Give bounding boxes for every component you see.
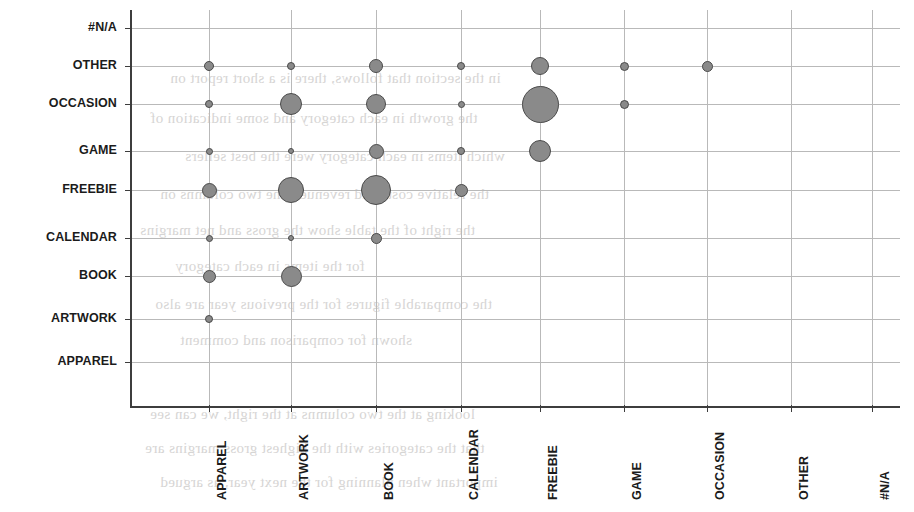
bubble-data-point bbox=[455, 184, 468, 197]
ghost-text-line: shown for comparison and comment bbox=[180, 332, 412, 349]
gridline-vertical bbox=[791, 10, 792, 406]
gridline-horizontal bbox=[131, 104, 900, 105]
bubble-data-point bbox=[531, 57, 549, 75]
y-axis-tick-label: CALENDAR bbox=[0, 230, 117, 244]
bubble-data-point bbox=[288, 148, 294, 154]
y-axis-line bbox=[130, 10, 132, 408]
ghost-text-line: the right of the table show the gross an… bbox=[140, 222, 475, 239]
bubble-data-point bbox=[702, 61, 713, 72]
gridline-horizontal bbox=[131, 319, 900, 320]
gridline-horizontal bbox=[131, 151, 900, 152]
y-axis-tick-label: BOOK bbox=[0, 268, 117, 282]
ghost-text-line: in the section that follows, there is a … bbox=[170, 70, 501, 87]
ghost-text-line: that the categories with the highest gro… bbox=[145, 440, 485, 457]
bubble-data-point bbox=[288, 235, 294, 241]
y-axis-tick-label: OTHER bbox=[0, 58, 117, 72]
bubble-data-point bbox=[205, 315, 213, 323]
gridline-horizontal bbox=[131, 28, 900, 29]
y-axis-tick-label: #N/A bbox=[0, 20, 117, 34]
ghost-text-line: the growth in each category and some ind… bbox=[150, 110, 477, 127]
gridline-horizontal bbox=[131, 362, 900, 363]
y-axis-tick-label: FREEBIE bbox=[0, 182, 117, 196]
bubble-data-point bbox=[620, 100, 629, 109]
bubble-data-point bbox=[203, 270, 216, 283]
bubble-data-point bbox=[620, 62, 629, 71]
x-axis-tick-label: #N/A bbox=[878, 471, 892, 500]
gridline-horizontal bbox=[131, 276, 900, 277]
bubble-data-point bbox=[278, 177, 304, 203]
bubble-data-point bbox=[205, 100, 213, 108]
bubble-data-point bbox=[280, 93, 302, 115]
bubble-data-point bbox=[287, 62, 295, 70]
bubble-data-point bbox=[281, 266, 302, 287]
y-axis-tick-label: ARTWORK bbox=[0, 311, 117, 325]
bubble-data-point bbox=[369, 59, 383, 73]
x-axis-tick-label: ARTWORK bbox=[297, 434, 311, 500]
y-axis-tick-label: OCCASION bbox=[0, 96, 117, 110]
x-axis-tick-label: GAME bbox=[630, 462, 644, 500]
bubble-data-point bbox=[529, 140, 551, 162]
x-axis-tick-label: FREEBIE bbox=[546, 445, 560, 500]
ghost-text-line: looking at the two columns at the right,… bbox=[150, 406, 475, 423]
x-axis-tick-label: BOOK bbox=[382, 462, 396, 500]
gridline-horizontal bbox=[131, 238, 900, 239]
bubble-data-point bbox=[457, 62, 465, 70]
bubble-matrix-chart: in the section that follows, there is a … bbox=[0, 0, 914, 512]
bubble-data-point bbox=[371, 233, 382, 244]
bubble-data-point bbox=[204, 61, 214, 71]
x-axis-tick-label: OCCASION bbox=[713, 432, 727, 500]
bubble-data-point bbox=[206, 148, 213, 155]
bubble-data-point bbox=[522, 86, 559, 123]
bubble-data-point bbox=[457, 147, 465, 155]
x-axis-line bbox=[130, 406, 900, 408]
gridline-horizontal bbox=[131, 66, 900, 67]
x-axis-tick-label: CALENDAR bbox=[467, 429, 481, 500]
bubble-data-point bbox=[369, 144, 384, 159]
ghost-text-line: the comparable figures for the previous … bbox=[155, 296, 492, 313]
ghost-text-line: important when planning for the next yea… bbox=[160, 474, 498, 491]
bubble-data-point bbox=[361, 175, 391, 205]
x-axis-tick-label: APPAREL bbox=[215, 440, 229, 500]
background-ghost-text-layer: in the section that follows, there is a … bbox=[0, 0, 914, 512]
y-axis-tick-label: GAME bbox=[0, 143, 117, 157]
gridline-vertical bbox=[872, 10, 873, 406]
x-axis-tick-label: OTHER bbox=[797, 456, 811, 500]
bubble-data-point bbox=[206, 235, 213, 242]
y-axis-tick-label: APPAREL bbox=[0, 354, 117, 368]
bubble-data-point bbox=[366, 94, 386, 114]
bubble-data-point bbox=[458, 101, 465, 108]
bubble-data-point bbox=[202, 183, 217, 198]
gridline-horizontal bbox=[131, 190, 900, 191]
